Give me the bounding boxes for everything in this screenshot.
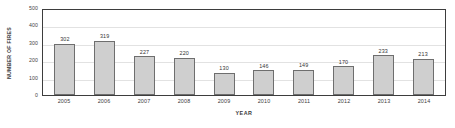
bar-value-label: 130: [219, 65, 228, 71]
bar-value-label: 302: [60, 36, 69, 42]
bar-value-label: 233: [379, 48, 388, 54]
y-tick-label: 500: [29, 5, 38, 11]
y-axis-tick-labels: 500 400 300 200 100 0: [16, 8, 40, 96]
bar-slot: 213: [403, 10, 443, 95]
bar-slot: 227: [125, 10, 165, 95]
bar-value-label: 213: [418, 51, 427, 57]
bar: [373, 55, 394, 95]
bar-slot: 170: [324, 10, 364, 95]
bar-slot: 146: [244, 10, 284, 95]
bar: [174, 58, 195, 95]
bar-slot: 319: [85, 10, 125, 95]
y-tick-label: 0: [35, 92, 38, 98]
bar: [134, 56, 155, 95]
y-tick-label: 100: [29, 75, 38, 81]
x-tick-label: 2010: [244, 98, 284, 108]
bar-value-label: 220: [180, 50, 189, 56]
bar-value-label: 149: [299, 62, 308, 68]
x-tick-label: 2014: [404, 98, 444, 108]
y-axis-title-label: NUMBER OF FIRES: [6, 27, 12, 79]
bar: [413, 59, 434, 95]
x-tick-label: 2013: [364, 98, 404, 108]
bar-slot: 302: [45, 10, 85, 95]
bar: [214, 73, 235, 95]
x-tick-label: 2007: [124, 98, 164, 108]
bar-value-label: 170: [339, 59, 348, 65]
bar: [54, 44, 75, 95]
bar-value-label: 319: [100, 33, 109, 39]
bar-value-label: 227: [140, 49, 149, 55]
x-axis-tick-labels: 2005 2006 2007 2008 2009 2010 2011 2012 …: [42, 98, 446, 108]
bar-slot: 233: [363, 10, 403, 95]
bar-chart-figure: NUMBER OF FIRES 500 400 300 200 100 0 30…: [0, 0, 455, 128]
bar-value-label: 146: [259, 63, 268, 69]
bar-slot: 149: [284, 10, 324, 95]
bar: [333, 66, 354, 95]
plot-area: 302 319 227 220 130 146: [42, 9, 446, 96]
bar: [253, 70, 274, 95]
bar-slot: 220: [164, 10, 204, 95]
x-tick-label: 2005: [44, 98, 84, 108]
x-tick-label: 2012: [324, 98, 364, 108]
bar-slot: 130: [204, 10, 244, 95]
bar: [293, 70, 314, 95]
x-tick-label: 2009: [204, 98, 244, 108]
y-tick-label: 300: [29, 40, 38, 46]
x-tick-label: 2006: [84, 98, 124, 108]
x-tick-label: 2008: [164, 98, 204, 108]
x-tick-label: 2011: [284, 98, 324, 108]
y-tick-label: 400: [29, 22, 38, 28]
bar: [94, 41, 115, 95]
y-tick-label: 200: [29, 57, 38, 63]
x-axis-title: YEAR: [42, 110, 446, 116]
y-axis-title: NUMBER OF FIRES: [2, 10, 16, 96]
bars-layer: 302 319 227 220 130 146: [43, 10, 445, 95]
